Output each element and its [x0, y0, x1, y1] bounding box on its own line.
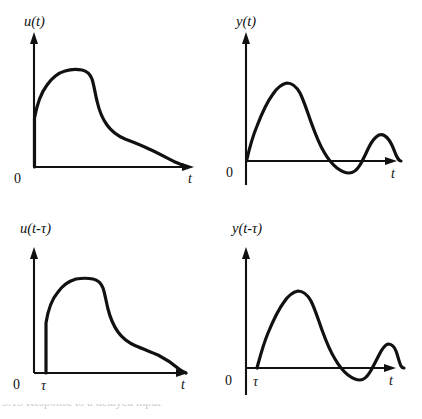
figure-caption: 5.13 Response to a delayed input: [2, 404, 161, 410]
x-axis-label-u-t: t: [188, 172, 192, 186]
curve-y-t-minus-tau: [257, 291, 404, 380]
x-axis-label-y-t-minus-tau: t: [389, 374, 393, 388]
panel-u-t: u(t) 0 t: [0, 0, 211, 205]
panel-u-t-minus-tau: u(t-τ) 0 τ t: [0, 205, 211, 410]
y-axis-arrow-icon: [242, 247, 250, 259]
caption-strip: 5.13 Response to a delayed input: [0, 404, 422, 419]
plot-u-t: [0, 0, 211, 205]
panel-label-y-t-minus-tau: y(t-τ): [232, 221, 262, 236]
x-axis-label-y-t: t: [391, 167, 395, 181]
panel-label-u-t: u(t): [24, 14, 45, 29]
curve-u-t-minus-tau: [46, 278, 186, 373]
panel-y-t: y(t) 0 t: [211, 0, 422, 205]
curve-u-t: [35, 69, 188, 167]
y-axis-arrow-icon: [30, 247, 38, 259]
y-axis-arrow-icon: [242, 32, 250, 44]
panel-y-t-minus-tau: y(t-τ) 0 τ t: [211, 205, 422, 410]
delay-label-tau-u: τ: [41, 379, 46, 393]
delay-label-tau-y: τ: [253, 375, 258, 389]
panel-label-y-t: y(t): [236, 14, 256, 29]
origin-label-y-t: 0: [226, 166, 233, 180]
x-axis-label-u-t-minus-tau: t: [181, 378, 185, 392]
panel-label-u-t-minus-tau: u(t-τ): [20, 221, 51, 236]
figure-root: u(t) 0 t y(t) 0 t u(t-τ): [0, 0, 422, 419]
x-axis-arrow-icon: [384, 364, 396, 372]
origin-label-y-t-minus-tau: 0: [225, 374, 232, 388]
y-axis-arrow-icon: [30, 32, 38, 44]
origin-label-u-t-minus-tau: 0: [13, 378, 20, 392]
curve-y-t: [247, 83, 402, 173]
origin-label-u-t: 0: [14, 172, 21, 186]
x-axis-arrow-icon: [385, 157, 397, 165]
